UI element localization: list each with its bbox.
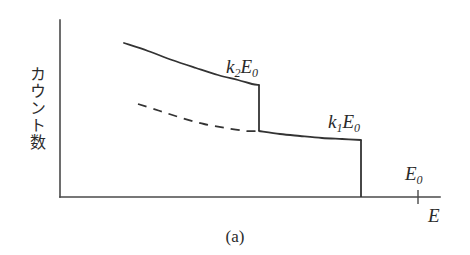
chart-annotations: k2E0 k1E0 E0 E カウント数 (a): [27, 56, 441, 246]
annotation-k1E0-E: E: [341, 111, 354, 132]
figure-caption: (a): [226, 227, 245, 246]
figure-container: k2E0 k1E0 E0 E カウント数 (a): [0, 0, 470, 255]
annotation-k2E0-E-sub: 0: [252, 66, 258, 80]
annotation-E0-sub: 0: [417, 173, 423, 187]
annotation-k1E0-E-sub: 0: [354, 121, 360, 135]
annotation-E0-E: E: [404, 163, 417, 184]
series-lower-continuum-solid: [259, 131, 361, 140]
annotation-k2E0: k2E0: [226, 56, 258, 80]
annotation-k2E0-E: E: [239, 56, 252, 77]
annotation-k1E0: k1E0: [328, 111, 360, 135]
y-axis-label: カウント数: [27, 66, 46, 151]
counts-vs-energy-chart: k2E0 k1E0 E0 E カウント数 (a): [0, 0, 470, 255]
series-dashed-continuum: [138, 104, 259, 131]
annotation-E0-tick-label: E0: [404, 163, 423, 187]
chart-axes: [60, 20, 440, 204]
x-axis-label: E: [427, 205, 440, 226]
